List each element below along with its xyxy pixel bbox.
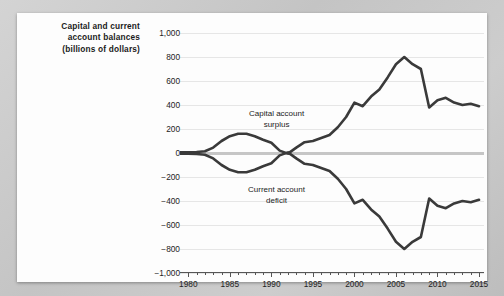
y-axis-tick-label: −200 [120,172,180,182]
annotation-capital-line-2: surplus [249,120,304,131]
x-axis-minor-tick [238,272,239,275]
x-axis-minor-tick [255,272,256,275]
annotation-current-line-2: deficit [248,196,305,207]
x-axis-tick-label: 1980 [179,279,197,289]
y-axis-tick-label: 600 [120,76,180,86]
x-axis-minor-tick [321,272,322,275]
x-axis-tick-label: 1990 [262,279,280,289]
x-axis-tick-label: 2005 [387,279,405,289]
x-axis-major-tick [188,272,189,277]
x-axis-minor-tick [346,272,347,275]
x-axis-minor-tick [388,272,389,275]
x-axis-tick-label: 2010 [428,279,446,289]
x-axis-minor-tick [413,272,414,275]
y-axis-tick-label: −400 [120,196,180,206]
y-axis-tick-label: −800 [120,244,180,254]
chart-card: Capital and current account balances (bi… [17,13,487,282]
annotation-current-line-1: Current account [248,185,305,196]
x-axis-minor-tick [421,272,422,275]
series-current-account-deficit [180,152,479,249]
x-axis-minor-tick [205,272,206,275]
x-axis-minor-tick [429,272,430,275]
annotation-capital-account: Capital account surplus [249,109,304,130]
y-axis-tick-label: 800 [120,52,180,62]
chart-figure: Capital and current account balances (bi… [17,13,487,282]
x-axis-minor-tick [305,272,306,275]
x-axis-minor-tick [296,272,297,275]
x-axis-major-tick [354,272,355,277]
x-axis-minor-tick [246,272,247,275]
y-axis-tick-label: 0 [120,148,180,158]
annotation-current-account: Current account deficit [248,185,305,206]
x-axis-minor-tick [213,272,214,275]
x-axis-minor-tick [404,272,405,275]
x-axis-tick-label: 1995 [304,279,322,289]
y-axis-tick-label: 400 [120,100,180,110]
x-axis-minor-tick [288,272,289,275]
x-axis-minor-tick [330,272,331,275]
x-axis-tick-label: 1985 [221,279,239,289]
x-axis-minor-tick [222,272,223,275]
x-axis-major-tick [396,272,397,277]
annotation-capital-line-1: Capital account [249,109,304,120]
x-axis-minor-tick [371,272,372,275]
x-axis-major-tick [271,272,272,277]
y-axis-tick-label: 1,000 [120,28,180,38]
x-axis-major-tick [437,272,438,277]
x-axis-minor-tick [446,272,447,275]
x-axis-minor-tick [263,272,264,275]
x-axis-minor-tick [280,272,281,275]
x-axis-minor-tick [471,272,472,275]
x-axis-minor-tick [462,272,463,275]
x-axis-tick-label: 2015 [470,279,488,289]
y-axis-tick-label: −1,000 [120,268,180,278]
x-axis-minor-tick [454,272,455,275]
x-axis-minor-tick [338,272,339,275]
series-capital-account-surplus [180,57,479,154]
y-axis-tick-label: −600 [120,220,180,230]
x-axis-major-tick [313,272,314,277]
x-axis-minor-tick [197,272,198,275]
x-axis-major-tick [230,272,231,277]
chart-title: Capital and current account balances (bi… [22,21,140,55]
x-axis-minor-tick [363,272,364,275]
y-axis-tick-label: 200 [120,124,180,134]
data-lines [180,33,484,273]
x-axis-tick-label: 2000 [345,279,363,289]
x-axis-major-tick [479,272,480,277]
x-axis-minor-tick [379,272,380,275]
plot-area [180,33,484,273]
